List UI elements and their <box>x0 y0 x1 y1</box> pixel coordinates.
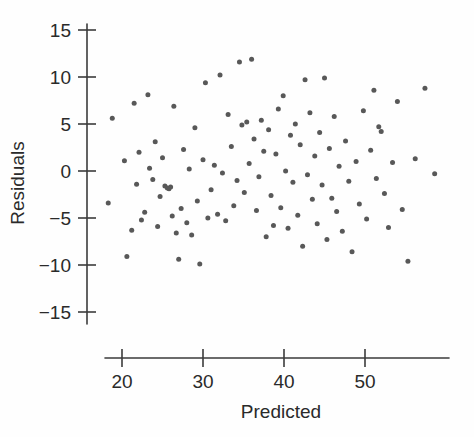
data-point <box>386 225 391 230</box>
y-axis-tick-label: 0 <box>60 161 71 182</box>
data-point <box>379 129 384 134</box>
data-point <box>357 201 362 206</box>
data-point <box>235 178 240 183</box>
data-point <box>106 200 111 205</box>
data-point <box>158 194 163 199</box>
data-point <box>137 150 142 155</box>
data-point <box>283 169 288 174</box>
data-point <box>252 137 257 142</box>
x-axis-tick-label: 50 <box>354 371 375 392</box>
data-point <box>218 73 223 78</box>
y-axis-tick-label: −10 <box>39 255 71 276</box>
data-point <box>181 147 186 152</box>
data-point <box>155 224 160 229</box>
data-point <box>132 101 137 106</box>
data-point <box>205 216 210 221</box>
x-axis-tick-label: 30 <box>192 371 213 392</box>
data-point <box>293 122 298 127</box>
data-point <box>400 207 405 212</box>
data-point <box>134 182 139 187</box>
data-point <box>395 99 400 104</box>
data-point <box>432 171 437 176</box>
data-point <box>179 206 184 211</box>
data-point <box>215 212 220 217</box>
data-point <box>124 254 129 259</box>
data-point <box>322 75 327 80</box>
data-point <box>390 160 395 165</box>
data-point <box>189 232 194 237</box>
data-point <box>249 57 254 62</box>
data-point <box>147 166 152 171</box>
data-point <box>310 197 315 202</box>
data-point <box>223 218 228 223</box>
data-point <box>192 125 197 130</box>
y-axis-tick-label: −5 <box>49 208 71 229</box>
data-point <box>226 112 231 117</box>
y-axis-title: Residuals <box>7 141 28 224</box>
x-axis-tick-label: 40 <box>273 371 294 392</box>
data-point <box>276 106 281 111</box>
data-point <box>247 161 252 166</box>
axes-layer <box>78 24 449 367</box>
data-point <box>269 193 274 198</box>
data-point <box>160 155 165 160</box>
data-point <box>239 122 244 127</box>
data-point <box>150 177 155 182</box>
y-axis-tick-label: 10 <box>50 67 71 88</box>
data-point <box>254 208 259 213</box>
data-point <box>382 191 387 196</box>
data-point <box>201 157 206 162</box>
data-point <box>422 86 427 91</box>
data-point <box>346 179 351 184</box>
data-point <box>371 88 376 93</box>
data-point <box>290 180 295 185</box>
data-point <box>354 159 359 164</box>
data-point <box>413 156 418 161</box>
data-point <box>320 183 325 188</box>
data-point <box>324 237 329 242</box>
data-point <box>350 249 355 254</box>
data-point <box>334 209 339 214</box>
data-point <box>340 229 345 234</box>
data-point <box>110 116 115 121</box>
data-point <box>374 176 379 181</box>
data-point <box>327 146 332 151</box>
data-point <box>187 167 192 172</box>
data-point <box>329 196 334 201</box>
data-point <box>337 164 342 169</box>
data-point <box>244 120 249 125</box>
data-point <box>343 138 348 143</box>
data-point <box>317 130 322 135</box>
y-axis-tick-label: 15 <box>50 20 71 41</box>
data-point <box>129 228 134 233</box>
data-point <box>376 124 381 129</box>
data-point <box>288 133 293 138</box>
y-axis-tick-label: −15 <box>39 302 71 323</box>
data-point <box>261 149 266 154</box>
scatter-plot-figure: 151050−5−10−1520304050 Residuals Predict… <box>0 0 474 437</box>
data-point <box>209 187 214 192</box>
data-point <box>259 118 264 123</box>
data-point <box>142 210 147 215</box>
data-point <box>153 139 158 144</box>
data-point <box>170 214 175 219</box>
data-point <box>295 213 300 218</box>
data-point <box>145 92 150 97</box>
data-point <box>171 104 176 109</box>
x-axis-tick-label: 20 <box>111 371 132 392</box>
data-point <box>242 190 247 195</box>
data-point <box>368 148 373 153</box>
data-point <box>139 217 144 222</box>
data-point <box>197 262 202 267</box>
data-point <box>212 163 217 168</box>
data-point <box>168 184 173 189</box>
data-point <box>361 108 366 113</box>
data-point <box>220 170 225 175</box>
plot-canvas: 151050−5−10−1520304050 Residuals Predict… <box>0 0 474 437</box>
data-points-layer <box>106 57 437 267</box>
data-point <box>231 203 236 208</box>
x-axis-title: Predicted <box>241 401 321 422</box>
data-point <box>405 259 410 264</box>
data-point <box>122 158 127 163</box>
data-point <box>364 216 369 221</box>
